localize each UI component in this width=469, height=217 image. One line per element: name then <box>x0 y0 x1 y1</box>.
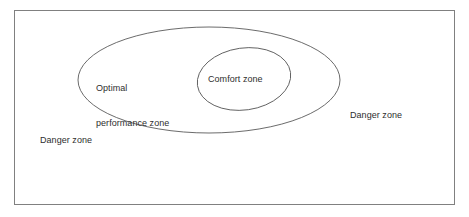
optimal-performance-zone-label-line1: Optimal <box>96 83 169 95</box>
diagram-canvas: Optimal performance zone Comfort zone Da… <box>0 0 469 217</box>
danger-zone-label-left: Danger zone <box>40 135 92 147</box>
optimal-performance-zone-label-line2: performance zone <box>96 118 169 130</box>
outer-frame <box>15 11 455 205</box>
danger-zone-label-right: Danger zone <box>350 110 402 122</box>
optimal-performance-zone-label: Optimal performance zone <box>96 60 169 152</box>
diagram-vector-layer <box>0 0 469 217</box>
comfort-zone-label: Comfort zone <box>208 74 263 86</box>
